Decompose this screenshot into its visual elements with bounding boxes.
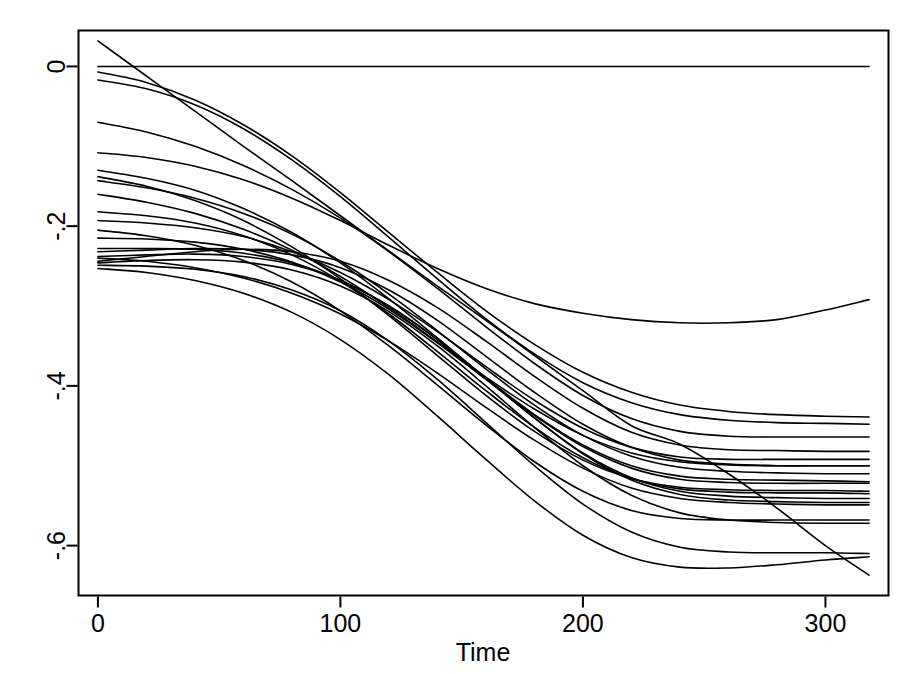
x-axis-tick-label: 0 (91, 609, 105, 637)
x-axis-title: Time (456, 638, 511, 666)
y-axis-tick-label: -.6 (43, 531, 71, 560)
x-axis-tick-label: 200 (562, 609, 604, 637)
y-axis-tick-label: 0 (43, 59, 71, 73)
y-axis-tick-label: -.2 (43, 212, 71, 241)
y-axis-tick-label: -.4 (43, 371, 71, 400)
x-axis-tick-label: 300 (805, 609, 847, 637)
chart-figure: 0100200300 0-.2-.4-.6 Time (0, 0, 919, 674)
x-axis-tick-label: 100 (320, 609, 362, 637)
spaghetti-line-chart: 0100200300 0-.2-.4-.6 Time (0, 0, 919, 674)
